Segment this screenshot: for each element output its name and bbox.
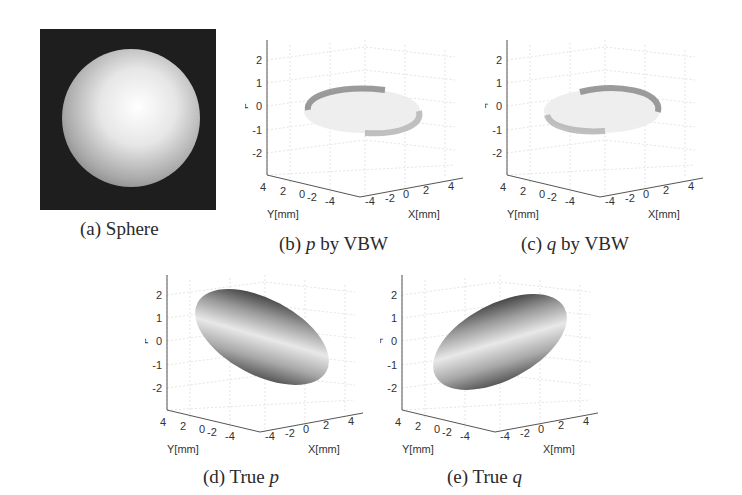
svg-text:2: 2 — [180, 420, 186, 432]
svg-text:0: 0 — [643, 188, 649, 200]
sphere-image — [40, 29, 216, 210]
svg-text:-4: -4 — [460, 430, 470, 442]
svg-text:-4: -4 — [325, 195, 335, 207]
plot-3d-e: 2 1 0 -1 -2 q 4 2 0 -2 -4 -4 -2 0 2 4 Y[… — [380, 270, 615, 465]
svg-text:-1: -1 — [152, 359, 162, 371]
caption-c: (c) q by VBW — [521, 233, 629, 255]
svg-text:-1: -1 — [492, 124, 502, 136]
svg-text:0: 0 — [496, 100, 502, 112]
svg-text:-2: -2 — [547, 191, 557, 203]
svg-text:0: 0 — [391, 335, 397, 347]
svg-text:4: 4 — [260, 181, 266, 193]
plot-3d-b: 2 1 0 -1 -2 p 4 2 0 -2 -4 -4 -2 0 2 4 Y[… — [245, 35, 480, 230]
svg-text:2: 2 — [423, 184, 429, 196]
plot-3d-c: 2 1 0 -1 -2 q 4 2 0 -2 -4 -4 -2 0 2 4 Y[… — [485, 35, 720, 230]
svg-text:1: 1 — [496, 77, 502, 89]
svg-text:2: 2 — [496, 54, 502, 66]
svg-text:0: 0 — [199, 423, 205, 435]
svg-text:-4: -4 — [565, 195, 575, 207]
svg-text:0: 0 — [299, 188, 305, 200]
svg-text:Y[mm]: Y[mm] — [507, 208, 539, 220]
svg-text:2: 2 — [558, 419, 564, 431]
svg-text:2: 2 — [520, 185, 526, 197]
panel-d-true-p: 2 1 0 -1 -2 p 4 2 0 -2 -4 -4 -2 0 2 4 Y[… — [145, 270, 380, 465]
svg-text:-4: -4 — [500, 430, 510, 442]
svg-text:4: 4 — [448, 180, 454, 192]
svg-text:X[mm]: X[mm] — [543, 443, 575, 455]
svg-text:0: 0 — [434, 423, 440, 435]
svg-text:1: 1 — [256, 77, 262, 89]
caption-a: (a) Sphere — [80, 218, 159, 240]
svg-text:-2: -2 — [387, 382, 397, 394]
plot-3d-d: 2 1 0 -1 -2 p 4 2 0 -2 -4 -4 -2 0 2 4 Y[… — [145, 270, 380, 465]
svg-text:4: 4 — [348, 415, 354, 427]
svg-text:-2: -2 — [207, 426, 217, 438]
svg-text:1: 1 — [156, 312, 162, 324]
svg-text:-1: -1 — [252, 124, 262, 136]
svg-text:-2: -2 — [252, 147, 262, 159]
svg-text:p: p — [145, 338, 148, 344]
svg-text:Y[mm]: Y[mm] — [402, 443, 434, 455]
svg-text:1: 1 — [391, 312, 397, 324]
svg-text:4: 4 — [688, 180, 694, 192]
svg-text:-2: -2 — [492, 147, 502, 159]
svg-text:4: 4 — [160, 416, 166, 428]
svg-text:-4: -4 — [265, 430, 275, 442]
panel-a-sphere — [40, 29, 216, 210]
svg-text:q: q — [380, 338, 383, 344]
svg-text:X[mm]: X[mm] — [648, 208, 680, 220]
svg-text:-4: -4 — [365, 195, 375, 207]
svg-text:2: 2 — [391, 289, 397, 301]
svg-text:-2: -2 — [152, 382, 162, 394]
panel-e-true-q: 2 1 0 -1 -2 q 4 2 0 -2 -4 -4 -2 0 2 4 Y[… — [380, 270, 615, 465]
svg-text:0: 0 — [156, 335, 162, 347]
svg-text:4: 4 — [395, 416, 401, 428]
caption-d: (d) True p — [203, 466, 279, 488]
svg-text:2: 2 — [156, 289, 162, 301]
svg-text:0: 0 — [539, 188, 545, 200]
svg-text:-2: -2 — [385, 192, 395, 204]
svg-text:-1: -1 — [387, 359, 397, 371]
svg-text:-4: -4 — [225, 430, 235, 442]
svg-text:2: 2 — [415, 420, 421, 432]
svg-text:-2: -2 — [307, 191, 317, 203]
svg-text:-2: -2 — [285, 427, 295, 439]
svg-text:q: q — [485, 103, 488, 109]
svg-text:p: p — [245, 103, 248, 109]
caption-e: (e) True q — [447, 466, 522, 488]
caption-b: (b) p by VBW — [279, 233, 388, 255]
svg-text:-2: -2 — [442, 426, 452, 438]
svg-text:0: 0 — [538, 423, 544, 435]
svg-text:4: 4 — [500, 181, 506, 193]
svg-text:2: 2 — [323, 419, 329, 431]
svg-text:X[mm]: X[mm] — [308, 443, 340, 455]
svg-text:-2: -2 — [625, 192, 635, 204]
svg-text:Y[mm]: Y[mm] — [167, 443, 199, 455]
svg-text:-4: -4 — [605, 195, 615, 207]
svg-text:0: 0 — [256, 100, 262, 112]
svg-text:2: 2 — [280, 185, 286, 197]
svg-text:4: 4 — [583, 415, 589, 427]
svg-text:0: 0 — [403, 188, 409, 200]
svg-text:Y[mm]: Y[mm] — [267, 208, 299, 220]
panel-c-q-vbw: 2 1 0 -1 -2 q 4 2 0 -2 -4 -4 -2 0 2 4 Y[… — [485, 35, 720, 230]
svg-text:2: 2 — [663, 184, 669, 196]
svg-text:-2: -2 — [520, 427, 530, 439]
svg-text:2: 2 — [256, 54, 262, 66]
panel-b-p-vbw: 2 1 0 -1 -2 p 4 2 0 -2 -4 -4 -2 0 2 4 Y[… — [245, 35, 480, 230]
svg-text:0: 0 — [303, 423, 309, 435]
svg-text:X[mm]: X[mm] — [408, 208, 440, 220]
